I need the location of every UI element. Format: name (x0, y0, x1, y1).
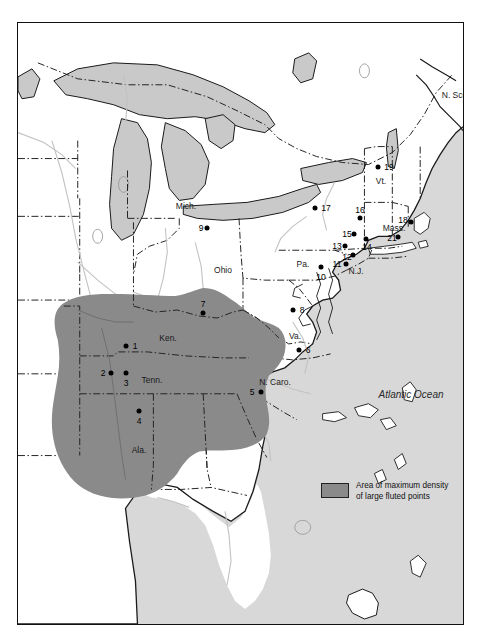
site-point-1 (124, 344, 129, 349)
place-label-ohio: Ohio (214, 265, 232, 275)
site-label-12: 12 (342, 252, 351, 262)
place-label-vt: Vt. (376, 176, 386, 186)
site-label-3: 3 (124, 378, 129, 388)
site-point-14 (364, 237, 369, 242)
site-label-7: 7 (201, 299, 206, 309)
site-label-13: 13 (332, 241, 341, 251)
site-point-17 (313, 206, 318, 211)
site-label-2: 2 (101, 368, 106, 378)
site-label-10: 10 (316, 272, 325, 282)
site-label-16: 16 (355, 205, 364, 215)
site-label-6: 6 (306, 345, 311, 355)
place-label-pa: Pa. (297, 259, 310, 269)
place-label-nj: N.J. (348, 266, 363, 276)
site-point-3 (124, 371, 129, 376)
site-point-9 (205, 226, 210, 231)
site-label-5: 5 (250, 387, 255, 397)
site-label-21: 21 (387, 233, 396, 243)
legend-swatch-density-area (321, 483, 349, 498)
place-label-mich: Mich. (176, 201, 196, 211)
site-point-5 (259, 390, 264, 395)
map-legend: Area of maximum density of large fluted … (321, 481, 448, 503)
site-label-1: 1 (133, 341, 138, 351)
map-frame: Mich. Ohio Pa. N.J. Vt. Mass. Ken. Tenn.… (17, 22, 464, 625)
site-label-18: 18 (398, 215, 407, 225)
site-label-19: 19 (384, 162, 393, 172)
site-label-15: 15 (342, 229, 351, 239)
site-label-4: 4 (137, 416, 142, 426)
site-point-4 (137, 409, 142, 414)
place-label-va: Va. (289, 331, 301, 341)
site-label-8: 8 (300, 305, 305, 315)
site-point-18 (409, 220, 414, 225)
map-geography-layer (18, 23, 463, 624)
site-point-8 (291, 308, 296, 313)
fluted-points-distribution-map: Mich. Ohio Pa. N.J. Vt. Mass. Ken. Tenn.… (0, 0, 482, 641)
site-point-10 (319, 265, 324, 270)
place-label-ala: Ala. (132, 445, 147, 455)
place-label-n-caro: N. Caro. (259, 377, 291, 387)
legend-line-2: of large fluted points (356, 492, 448, 503)
site-point-11 (344, 262, 349, 267)
site-label-9: 9 (199, 223, 204, 233)
site-point-7 (201, 311, 206, 316)
site-point-13 (343, 244, 348, 249)
site-point-19 (376, 165, 381, 170)
place-label-n-scotia: N. Scotia (442, 90, 464, 100)
site-point-6 (297, 348, 302, 353)
legend-line-1: Area of maximum density (356, 481, 448, 492)
site-label-14: 14 (362, 242, 371, 252)
place-label-tenn: Tenn. (142, 375, 163, 385)
ocean-label-atlantic: Atlantic Ocean (378, 389, 443, 400)
site-point-16 (358, 216, 363, 221)
site-label-11: 11 (333, 259, 342, 269)
site-point-15 (352, 232, 357, 237)
place-label-ken: Ken. (159, 333, 177, 343)
legend-text: Area of maximum density of large fluted … (356, 481, 448, 503)
site-point-2 (109, 371, 114, 376)
site-label-17: 17 (321, 203, 330, 213)
